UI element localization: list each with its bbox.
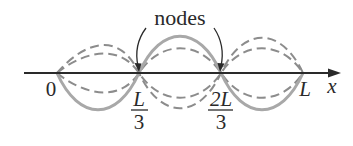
- tick-label-l: L: [298, 77, 311, 101]
- tick-label-l3-denominator: 3: [134, 110, 145, 134]
- standing-wave-diagram: nodes 0 L 3 2L 3 L x: [0, 0, 353, 146]
- tick-label-l3-numerator: L: [132, 87, 145, 111]
- axis-variable-label: x: [326, 74, 337, 98]
- tick-label-2l3-denominator: 3: [216, 110, 227, 134]
- tick-label-2l3-numerator: 2L: [210, 87, 232, 111]
- tick-label-zero: 0: [46, 77, 57, 101]
- nodes-label: nodes: [154, 5, 205, 30]
